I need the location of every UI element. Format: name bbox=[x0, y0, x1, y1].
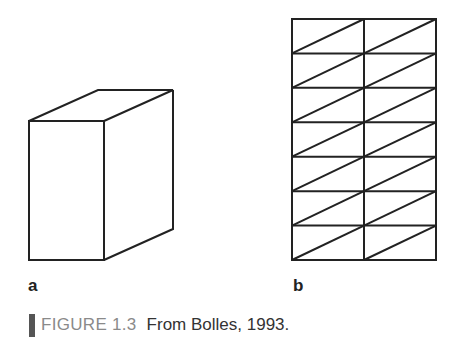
figure-caption: FIGURE 1.3 From Bolles, 1993. bbox=[29, 314, 289, 336]
panel-a-box bbox=[29, 90, 173, 260]
panel-b-grid bbox=[292, 19, 436, 260]
panel-label-a: a bbox=[28, 276, 37, 296]
caption-text: From Bolles, 1993. bbox=[147, 315, 290, 335]
figure-drawing bbox=[0, 0, 466, 300]
panel-label-b: b bbox=[293, 276, 303, 296]
caption-bar bbox=[29, 314, 35, 337]
caption-figure-number: FIGURE 1.3 bbox=[41, 315, 137, 335]
